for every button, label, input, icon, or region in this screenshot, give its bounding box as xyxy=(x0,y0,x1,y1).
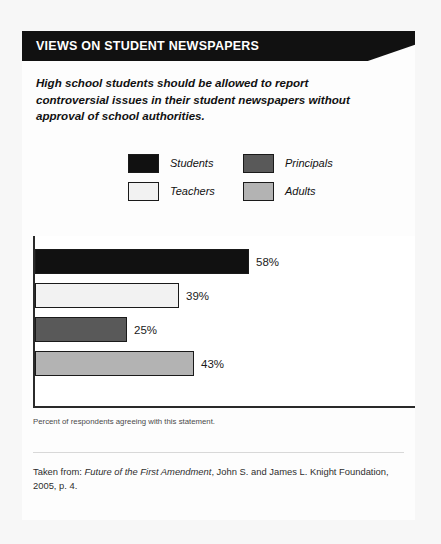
chart-x-axis xyxy=(33,406,415,408)
bar-principals xyxy=(35,317,127,342)
bar-row: 58% xyxy=(35,249,279,274)
legend-swatch-teachers xyxy=(128,182,159,201)
legend-swatch-students xyxy=(128,154,159,173)
source-prefix: Taken from: xyxy=(33,466,85,477)
bar-row: 43% xyxy=(35,351,224,376)
legend-item-adults: Adults xyxy=(243,182,358,201)
legend-item-students: Students xyxy=(128,154,243,173)
legend-swatch-adults xyxy=(243,182,274,201)
legend-row: Teachers Adults xyxy=(128,177,358,205)
bar-row: 39% xyxy=(35,283,209,308)
bar-value-label: 43% xyxy=(201,358,224,370)
bar-value-label: 58% xyxy=(256,256,279,268)
legend-label-principals: Principals xyxy=(285,157,333,169)
legend-row: Students Principals xyxy=(128,149,358,177)
bar-chart: 58%39%25%43% xyxy=(33,236,415,408)
legend-item-principals: Principals xyxy=(243,154,358,173)
figure-title: VIEWS ON STUDENT NEWSPAPERS xyxy=(36,38,259,54)
legend-swatch-principals xyxy=(243,154,274,173)
chart-legend: Students Principals Teachers Adults xyxy=(128,149,358,205)
bar-value-label: 25% xyxy=(134,324,157,336)
bar-adults xyxy=(35,351,194,376)
source-divider xyxy=(33,452,404,453)
legend-label-adults: Adults xyxy=(285,185,316,197)
survey-statement: High school students should be allowed t… xyxy=(36,75,366,125)
legend-label-students: Students xyxy=(170,157,213,169)
legend-label-teachers: Teachers xyxy=(170,185,215,197)
chart-caption: Percent of respondents agreeing with thi… xyxy=(33,416,393,427)
figure-card: VIEWS ON STUDENT NEWSPAPERS High school … xyxy=(22,31,415,520)
legend-item-teachers: Teachers xyxy=(128,182,243,201)
bar-students xyxy=(35,249,249,274)
bar-value-label: 39% xyxy=(186,290,209,302)
bar-teachers xyxy=(35,283,179,308)
bar-row: 25% xyxy=(35,317,157,342)
source-attribution: Taken from: Future of the First Amendmen… xyxy=(33,465,395,492)
source-title: Future of the First Amendment xyxy=(85,466,212,477)
